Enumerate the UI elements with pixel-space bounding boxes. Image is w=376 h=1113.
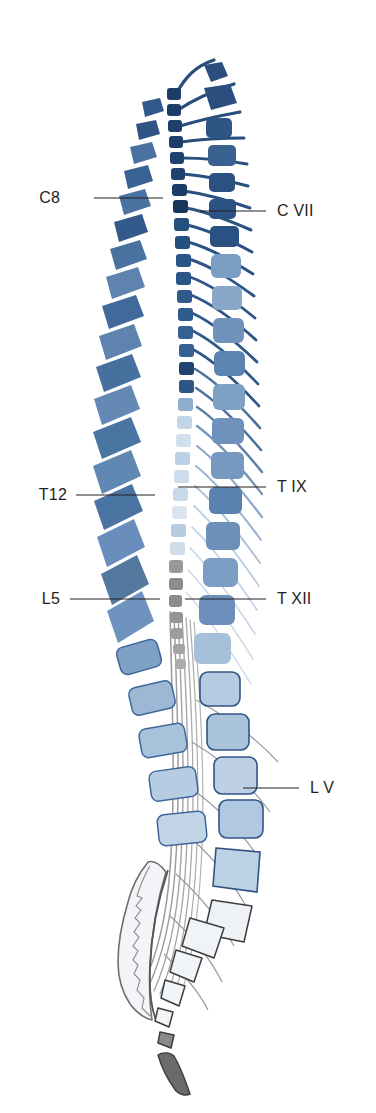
- spinal-cord-segment-T4: [176, 272, 191, 285]
- vertebral-body-C4: [208, 145, 236, 166]
- spinal-cord-segment-L4: [173, 488, 188, 501]
- spinous-process-L5: [157, 811, 208, 847]
- vertebral-body-C3: [206, 118, 232, 138]
- spinal-cord-segment-Co4: [175, 659, 186, 669]
- vertebral-body-T9: [206, 522, 240, 550]
- spinal-cord-segment-T1: [174, 218, 189, 231]
- vertebral-body-L4: [219, 800, 263, 838]
- vertebral-body-C5: [209, 173, 235, 192]
- spinal-cord-segment-C7: [172, 184, 187, 196]
- spinal-cord-segment-C1: [167, 88, 181, 100]
- label-txii: T XII: [277, 590, 312, 607]
- spinal-cord-segment-C8: [173, 200, 188, 213]
- vertebral-body-T12: [194, 633, 231, 664]
- vertebral-body-T3: [213, 318, 244, 343]
- vertebral-body-C7: [210, 226, 239, 247]
- spinal-cord-segment-C2: [167, 104, 181, 116]
- spinal-cord-segment-T12: [177, 416, 192, 429]
- vertebral-body-T4: [214, 351, 245, 376]
- spinal-cord-segment-L2: [175, 452, 190, 465]
- vertebral-body-T1: [211, 254, 241, 278]
- vertebral-body-T5: [213, 384, 245, 410]
- spinal-cord-segment-T10: [179, 380, 194, 393]
- spinal-cord-segment-T8: [179, 344, 194, 357]
- spinal-cord-segment-T11: [178, 398, 193, 411]
- vertebral-body-T8: [209, 487, 242, 514]
- spinal-cord-segment-T6: [178, 308, 193, 321]
- spinal-cord-segment-S1: [171, 524, 186, 537]
- spinal-cord-segment-Co2: [171, 628, 183, 639]
- label-c8: C8: [39, 189, 60, 206]
- spinal-cord-segment-S4: [169, 578, 183, 590]
- spinal-cord-segment-L3: [174, 470, 189, 483]
- spinal-cord-segment-T9: [179, 362, 194, 375]
- vertebral-body-T6: [212, 418, 244, 444]
- spinal-cord-segment-C5: [170, 152, 184, 164]
- spinal-cord-segment-Co3: [173, 644, 185, 654]
- label-cvii: C VII: [277, 202, 314, 219]
- label-t12: T12: [39, 486, 67, 503]
- spinal-cord-segment-S5: [169, 595, 182, 607]
- vertebral-body-T10: [203, 558, 238, 587]
- label-lv: L V: [310, 779, 334, 796]
- vertebral-body-T7: [211, 452, 244, 479]
- spine-illustration: C8 C VII T12 T IX L5 T XII L V: [0, 0, 376, 1113]
- vertebral-body-T2: [212, 286, 242, 310]
- spinal-cord-segment-L5: [172, 506, 187, 519]
- spinal-cord-segment-T7: [178, 326, 193, 339]
- spinal-cord-segment-S2: [170, 542, 185, 555]
- spinal-cord-segment-Co1: [170, 612, 183, 623]
- spinal-cord-segment-C3: [168, 120, 182, 132]
- vertebral-body-C6: [209, 199, 236, 219]
- spinal-cord-segment-C4: [169, 136, 183, 148]
- label-tix: T IX: [277, 478, 307, 495]
- spine-svg: C8 C VII T12 T IX L5 T XII L V: [0, 0, 376, 1113]
- vertebral-body-L2: [207, 714, 249, 750]
- spinal-cord-segment-L1: [176, 434, 191, 447]
- spinal-cord-segment-C6: [171, 168, 185, 180]
- spinal-cord-segment-T2: [175, 236, 190, 249]
- spinal-cord-segment-T3: [176, 254, 191, 267]
- label-l5: L5: [42, 590, 60, 607]
- spinal-cord-segment-S3: [169, 560, 183, 573]
- vertebral-body-L5: [213, 848, 260, 892]
- spinal-cord-segment-T5: [177, 290, 192, 303]
- vertebral-body-L1: [200, 672, 240, 706]
